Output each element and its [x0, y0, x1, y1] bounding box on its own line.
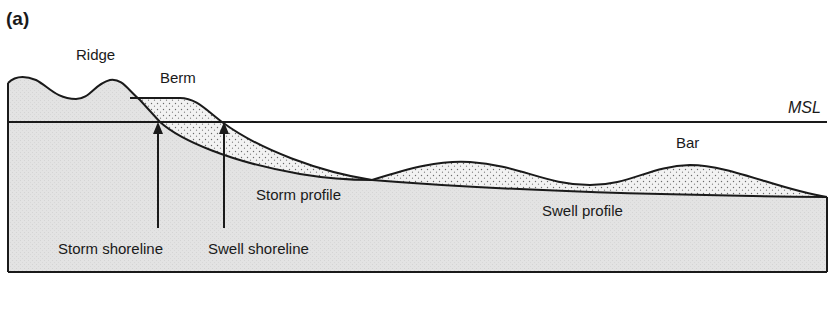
storm-profile-label: Storm profile	[256, 187, 341, 202]
ridge-label: Ridge	[76, 47, 115, 62]
swell-profile-label: Swell profile	[542, 203, 623, 218]
storm-shoreline-label: Storm shoreline	[58, 241, 163, 256]
beach-profile-diagram	[0, 0, 830, 327]
swell-shoreline-label: Swell shoreline	[208, 241, 309, 256]
msl-label: MSL	[788, 100, 821, 116]
bar-label: Bar	[676, 135, 699, 150]
berm-label: Berm	[160, 70, 196, 85]
